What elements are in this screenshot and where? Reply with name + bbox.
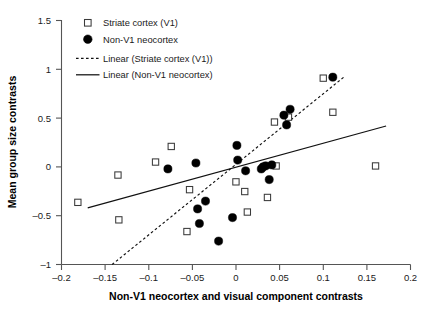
legend-marker-open-square [85, 20, 92, 27]
data-point-square [186, 187, 192, 193]
data-point-circle [192, 159, 200, 167]
x-tick-label-0.05: 0.05 [270, 272, 289, 283]
data-point-circle [201, 197, 209, 205]
series-non-v1-neocortex-points [164, 73, 337, 245]
x-tick-label-0.1: 0.1 [317, 272, 330, 283]
trendline-striate-v1 [112, 76, 345, 264]
y-tick-label-minus-0.5: –0.5 [33, 210, 52, 221]
data-point-square [233, 179, 239, 185]
data-point-circle [283, 121, 291, 129]
data-point-square [264, 194, 270, 200]
data-point-square [115, 172, 121, 178]
x-tick-label-minus-0.2: –0.2 [52, 272, 71, 283]
data-point-square [75, 199, 81, 205]
legend-label-linear-non-v1-neocortex: Linear (Non-V1 neocortex) [103, 70, 213, 80]
x-tick-label-0: 0 [233, 272, 238, 283]
data-point-square [271, 119, 277, 125]
data-point-circle [242, 167, 250, 175]
x-axis-title: Non-V1 neocortex and visual component co… [109, 290, 363, 302]
data-point-circle [280, 111, 288, 119]
data-point-square [152, 159, 158, 165]
y-tick-label-0: 0 [46, 161, 51, 172]
data-point-square [242, 188, 248, 194]
data-point-square [184, 228, 190, 234]
y-tick-label-1: 1 [46, 64, 51, 75]
trendlines-group [88, 76, 386, 264]
data-point-square [244, 209, 250, 215]
legend-label-non-v1-neocortex: Non-V1 neocortex [103, 35, 178, 45]
trendline-non-v1-neocortex [88, 126, 386, 208]
series-striate-cortex-v1-points [75, 75, 379, 235]
data-point-circle [329, 73, 337, 81]
x-tick-label-minus-0.15: –0.15 [93, 272, 117, 283]
data-point-circle [228, 214, 236, 222]
data-point-square [372, 163, 378, 169]
data-point-circle [233, 141, 241, 149]
data-point-circle [286, 105, 294, 113]
x-tick-label-minus-0.1: –0.1 [140, 272, 159, 283]
y-tick-label-0.5: 0.5 [38, 113, 51, 124]
data-point-circle [164, 165, 172, 173]
data-point-circle [195, 219, 203, 227]
data-point-square [116, 217, 122, 223]
legend-label-linear-striate-cortex-v1: Linear (Striate cortex (V1)) [103, 54, 213, 64]
legend-label-striate-cortex-v1: Striate cortex (V1) [103, 18, 178, 28]
y-tick-label-1.5: 1.5 [38, 15, 51, 26]
x-tick-label-0.2: 0.2 [404, 272, 417, 283]
data-point-square [330, 109, 336, 115]
x-tick-label-minus-0.05: –0.05 [181, 272, 205, 283]
x-tick-label-0.15: 0.15 [358, 272, 377, 283]
data-point-square [320, 75, 326, 81]
data-point-circle [194, 205, 202, 213]
chart-legend: Striate cortex (V1) Non-V1 neocortex Lin… [76, 18, 213, 80]
y-axis-ticks: 1.5 1 0.5 0 –0.5 –1 [33, 15, 62, 270]
legend-marker-filled-circle [84, 35, 93, 44]
y-axis-title: Mean group size contrasts [6, 76, 18, 209]
y-tick-label-minus-1: –1 [40, 259, 51, 270]
data-point-circle [268, 161, 276, 169]
data-point-square [168, 143, 174, 149]
x-axis-ticks: –0.2 –0.15 –0.1 –0.05 0 0.05 0.1 0.15 0.… [52, 265, 417, 284]
data-point-circle [234, 156, 242, 164]
plot-canvas: 1.5 1 0.5 0 –0.5 –1 –0.2 –0.15 –0.1 –0.0… [0, 0, 426, 310]
scatter-plot-figure: 1.5 1 0.5 0 –0.5 –1 –0.2 –0.15 –0.1 –0.0… [0, 0, 426, 310]
data-point-circle [265, 176, 273, 184]
data-point-circle [215, 237, 223, 245]
